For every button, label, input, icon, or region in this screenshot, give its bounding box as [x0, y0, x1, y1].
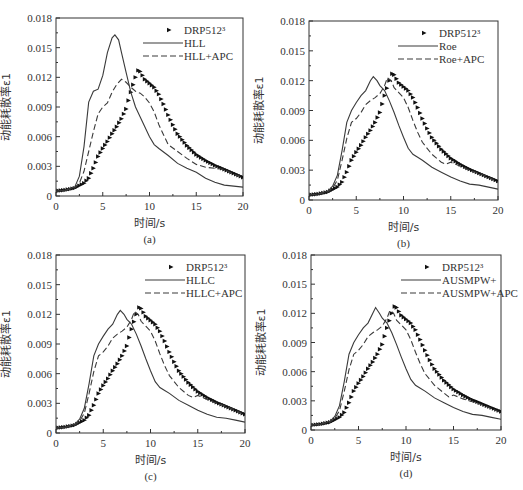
legend-label: HLL	[184, 37, 206, 49]
data-marker	[96, 154, 101, 158]
data-marker	[92, 403, 97, 407]
data-marker	[113, 365, 118, 369]
data-marker	[411, 324, 416, 328]
data-marker	[380, 102, 385, 106]
data-marker	[105, 139, 110, 143]
data-marker	[117, 121, 122, 125]
data-marker	[420, 116, 425, 120]
data-marker	[124, 107, 129, 111]
data-marker	[140, 73, 145, 77]
data-marker	[89, 408, 94, 412]
y-tick-label: 0	[300, 194, 306, 206]
data-marker	[357, 147, 362, 151]
y-tick-label: 0.009	[282, 337, 307, 349]
panel-a: 00.0030.0060.0090.0120.0150.01805101520时…	[0, 12, 249, 246]
x-tick-label: 20	[240, 437, 252, 449]
data-marker	[165, 344, 170, 348]
x-tick-label: 5	[101, 437, 107, 449]
y-tick-label: 0.015	[280, 45, 305, 57]
data-marker	[359, 378, 364, 382]
legend: DRP512³RoeRoe+APC	[398, 27, 484, 65]
data-marker	[159, 97, 164, 101]
data-marker	[340, 180, 345, 184]
data-marker	[359, 143, 364, 147]
legend-label: AUSMPW+	[442, 274, 497, 286]
legend: DRP512³HLLCHLLC+APC	[145, 261, 242, 299]
data-marker	[378, 110, 383, 114]
y-tick-label: 0.003	[280, 164, 305, 176]
data-marker	[361, 374, 366, 378]
data-marker	[172, 360, 177, 364]
y-tick-label: 0.006	[27, 131, 52, 143]
y-tick-label: 0.015	[27, 279, 52, 291]
data-marker	[414, 328, 419, 332]
legend-label: DRP512³	[186, 261, 228, 273]
data-marker	[387, 318, 392, 322]
data-marker	[366, 367, 371, 371]
panel-d: 00.0030.0060.0090.0120.0150.01805101520时…	[254, 249, 518, 480]
panel-c: 00.0030.0060.0090.0120.0150.01805101520时…	[0, 249, 251, 483]
data-marker	[376, 352, 381, 356]
data-marker	[394, 76, 399, 80]
data-marker	[119, 117, 124, 121]
data-marker	[423, 348, 428, 352]
y-tick-label: 0.009	[27, 338, 52, 350]
y-tick-label: 0.012	[27, 308, 52, 320]
data-marker	[416, 333, 421, 337]
data-marker	[368, 363, 373, 367]
legend-marker-icon	[169, 265, 174, 269]
data-marker	[378, 347, 383, 351]
y-tick-label: 0.018	[27, 12, 52, 24]
data-marker	[101, 383, 106, 387]
data-marker	[364, 135, 369, 139]
legend-label: DRP512³	[442, 261, 484, 273]
legend-label: DRP512³	[439, 27, 481, 39]
x-tick-label: 20	[493, 204, 505, 216]
data-marker	[106, 376, 111, 380]
x-tick-label: 0	[306, 204, 312, 216]
data-marker	[371, 360, 376, 364]
panel-caption: (a)	[143, 233, 156, 246]
data-marker	[409, 321, 414, 325]
x-tick-label: 15	[191, 200, 203, 212]
data-marker	[115, 125, 120, 129]
data-marker	[163, 339, 168, 343]
series-line-solid	[311, 308, 501, 426]
data-marker	[101, 146, 106, 150]
data-marker	[418, 337, 423, 341]
data-marker	[115, 362, 120, 366]
series-line-dashed	[56, 79, 243, 191]
data-marker	[91, 166, 96, 170]
data-marker	[406, 88, 411, 92]
data-marker	[139, 306, 144, 310]
data-marker	[87, 413, 92, 417]
data-marker	[354, 150, 359, 154]
x-tick-label: 10	[401, 434, 413, 446]
y-axis-title: 动能耗散率ε1	[0, 310, 13, 378]
series-line-solid	[309, 77, 498, 195]
data-marker	[162, 102, 167, 106]
data-marker	[94, 160, 99, 164]
legend-label: Roe	[439, 40, 457, 52]
data-marker	[423, 121, 428, 125]
data-marker	[427, 131, 432, 135]
data-marker	[157, 92, 162, 96]
x-tick-label: 10	[398, 204, 410, 216]
y-tick-label: 0.015	[282, 278, 307, 290]
data-marker	[170, 355, 175, 359]
data-marker	[167, 350, 172, 354]
data-marker	[160, 334, 165, 338]
x-axis-title: 时间/s	[390, 451, 422, 464]
data-marker	[352, 389, 357, 393]
data-marker	[342, 175, 347, 179]
data-marker	[376, 115, 381, 119]
data-marker	[103, 143, 108, 147]
data-marker	[133, 75, 138, 79]
data-marker	[171, 123, 176, 127]
y-tick-label: 0.009	[280, 105, 305, 117]
data-marker	[153, 322, 158, 326]
data-marker	[131, 83, 136, 87]
x-axis-title: 时间/s	[134, 217, 166, 230]
panel-caption: (d)	[400, 467, 413, 480]
data-marker	[111, 369, 116, 373]
